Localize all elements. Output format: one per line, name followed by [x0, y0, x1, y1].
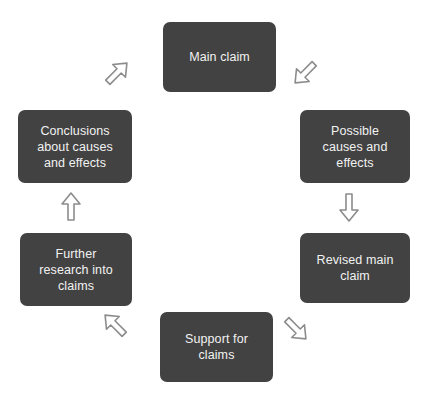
node-conclusions: Conclusions about causes and effects [18, 110, 132, 183]
node-label-further-research: Further research into claims [39, 246, 113, 294]
arrow-down-right-icon [288, 56, 322, 90]
node-label-support-for-claims: Support for claims [185, 331, 248, 363]
cycle-diagram: Main claim Possible causes and effects R… [0, 0, 431, 398]
arrow-up-left-icon [98, 308, 132, 342]
node-main-claim: Main claim [163, 22, 276, 92]
arrow-up-right-icon [100, 56, 134, 90]
arrow-up-icon [54, 190, 88, 224]
arrow-down-icon [332, 190, 366, 224]
node-label-possible-causes-effects: Possible causes and effects [323, 123, 388, 171]
node-further-research: Further research into claims [20, 233, 132, 306]
node-label-revised-main-claim: Revised main claim [317, 252, 394, 284]
node-revised-main-claim: Revised main claim [300, 233, 410, 303]
arrow-down-left-icon [279, 312, 313, 346]
node-label-conclusions: Conclusions about causes and effects [37, 123, 113, 171]
node-possible-causes-effects: Possible causes and effects [300, 110, 410, 183]
node-label-main-claim: Main claim [189, 49, 250, 65]
node-support-for-claims: Support for claims [160, 312, 273, 382]
